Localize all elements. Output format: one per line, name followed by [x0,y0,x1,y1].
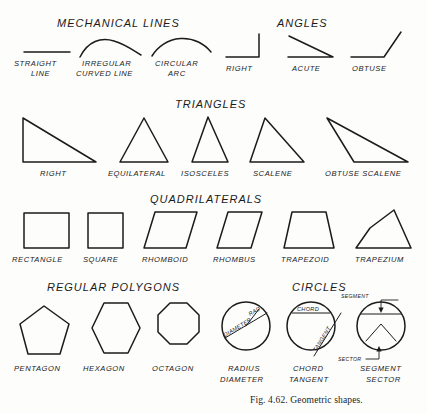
geometric-shapes-figure: MECHANICAL LINES ANGLES TRIANGLES QUADRI… [0,0,427,413]
shape-trapezium [356,210,411,248]
label-isosceles-triangle: ISOSCELES [181,169,229,178]
label-rectangle: RECTANGLE [12,255,63,264]
shape-octagon [158,303,199,344]
shape-scalene-triangle [250,118,304,162]
label-chord-tangent-1: CHORD [293,364,324,373]
shape-acute-angle [288,36,333,57]
shape-right-triangle [23,118,96,162]
heading-angles: ANGLES [276,17,328,29]
label-straight-line-2: LINE [31,69,50,78]
shape-circular-arc [152,38,211,56]
label-trapezoid: TRAPEZOID [281,255,329,264]
shape-trapezoid [284,212,334,248]
shape-equilateral-triangle [120,118,168,162]
annotation-diameter: DIAMETER [222,317,252,338]
label-octagon: OCTAGON [152,364,194,373]
figure-caption: Fig. 4.62. Geometric shapes. [250,394,363,405]
shape-square [88,213,123,248]
heading-quadrilaterals: QUADRILATERALS [150,193,262,205]
label-trapezium: TRAPEZIUM [355,255,404,264]
annotation-chord: CHORD [297,306,319,312]
label-irregular-curved-line-2: CURVED LINE [76,69,133,78]
label-irregular-curved-line-1: IRREGULAR [82,59,131,68]
shape-rhomboid [144,212,197,248]
label-segment-sector-1: SEGMENT [360,364,402,373]
callout-segment: SEGMENT [341,293,369,299]
shape-rhombus [217,212,262,248]
label-segment-sector-2: SECTOR [366,375,401,384]
label-acute-angle: ACUTE [291,64,321,73]
heading-circles: CIRCLES [292,281,347,293]
shape-isosceles-triangle [192,117,228,162]
segment-arrowhead [378,308,383,313]
shape-irregular-curved-line [80,40,141,57]
shape-segment-sector-circle [357,300,405,359]
label-chord-tangent-2: TANGENT [289,375,329,384]
heading-triangles: TRIANGLES [175,98,246,110]
annotation-tangent: TANGENT [312,325,332,353]
label-equilateral-triangle: EQUILATERAL [108,169,166,178]
figure-canvas: MECHANICAL LINES ANGLES TRIANGLES QUADRI… [0,0,427,413]
shape-hexagon [92,303,140,353]
shape-pentagon [20,306,69,354]
label-right-angle: RIGHT [226,64,253,73]
shape-obtuse-scalene-triangle [327,118,408,162]
label-straight-line-1: STRAIGHT [14,59,58,68]
label-circular-arc-2: ARC [167,69,186,78]
label-radius-diameter-2: DIAMETER [220,375,264,384]
shape-rectangle [24,213,69,248]
heading-mechanical-lines: MECHANICAL LINES [57,17,180,29]
sector-arrowhead [376,346,381,351]
callout-sector: SECTOR [338,356,361,362]
label-circular-arc-1: CIRCULAR [155,59,198,68]
shape-obtuse-angle [351,32,401,57]
label-obtuse-scalene-triangle: OBTUSE SCALENE [325,169,402,178]
shape-right-angle [226,34,259,57]
label-hexagon: HEXAGON [83,364,125,373]
label-rhomboid: RHOMBOID [142,255,188,264]
label-pentagon: PENTAGON [14,364,60,373]
label-rhombus: RHOMBUS [213,255,256,264]
heading-regular-polygons: REGULAR POLYGONS [47,281,180,293]
label-radius-diameter-1: RADIUS [228,364,260,373]
label-scalene-triangle: SCALENE [253,169,293,178]
annotation-radius: RAD. [247,304,263,317]
label-obtuse-angle: OBTUSE [352,64,387,73]
label-square: SQUARE [83,255,119,264]
label-right-triangle: RIGHT [40,169,67,178]
